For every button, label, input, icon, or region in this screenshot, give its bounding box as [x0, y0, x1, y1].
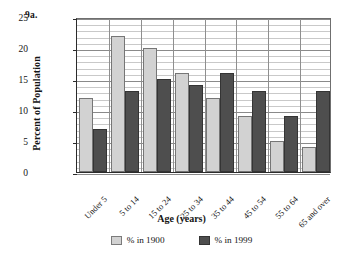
- y-axis-tick-mark: [73, 19, 77, 20]
- x-axis-title: Age (years): [0, 213, 363, 224]
- legend-swatch: [199, 236, 210, 245]
- bar: [189, 85, 203, 172]
- gridline-vertical: [300, 19, 301, 172]
- gridline-vertical: [173, 19, 174, 172]
- y-axis-tick-label: 15: [0, 75, 28, 85]
- bar: [284, 116, 298, 172]
- legend-item: % in 1900: [111, 235, 165, 245]
- gridline-vertical: [236, 19, 237, 172]
- x-axis-tick: 55 to 64: [293, 174, 320, 201]
- bar: [79, 98, 93, 172]
- x-axis-tick: 25 to 34: [198, 174, 225, 201]
- bar: [206, 98, 220, 172]
- gridline-minor: [77, 31, 330, 32]
- bar: [220, 73, 234, 172]
- bar: [93, 129, 107, 172]
- y-axis-tick-label: 25: [0, 13, 28, 23]
- gridline-vertical: [141, 19, 142, 172]
- bar: [302, 147, 316, 172]
- bar: [316, 91, 330, 172]
- y-axis-tick-mark: [73, 81, 77, 82]
- plot-area-wrapper: Under 55 to 1415 to 2425 to 3435 to 4445…: [76, 18, 331, 173]
- bar: [143, 48, 157, 172]
- bar: [175, 73, 189, 172]
- bar: [125, 91, 139, 172]
- x-axis-tick: 35 to 44: [229, 174, 256, 201]
- y-axis-tick-label: 5: [0, 137, 28, 147]
- y-axis-tick-mark: [73, 174, 77, 175]
- gridline-major: [77, 174, 330, 175]
- x-axis-tick: 45 to 54: [261, 174, 288, 201]
- chart-legend: % in 1900% in 1999: [0, 235, 363, 245]
- bar: [270, 141, 284, 172]
- plot-area: [76, 18, 331, 173]
- y-axis-title: Percent of Population: [31, 44, 42, 164]
- figure-container: 9a. Percent of Population 0510152025 Und…: [0, 0, 363, 262]
- legend-label: % in 1999: [215, 235, 253, 245]
- gridline-vertical: [268, 19, 269, 172]
- y-axis-tick-mark: [73, 50, 77, 51]
- bar: [157, 79, 171, 172]
- y-axis-tick-label: 10: [0, 106, 28, 116]
- gridline-vertical: [109, 19, 110, 172]
- legend-item: % in 1999: [199, 235, 253, 245]
- x-axis-tick: 15 to 24: [166, 174, 193, 201]
- legend-label: % in 1900: [127, 235, 165, 245]
- y-axis-tick-mark: [73, 143, 77, 144]
- y-axis-tick-label: 0: [0, 168, 28, 178]
- bar: [238, 116, 252, 172]
- bar: [111, 36, 125, 172]
- x-axis-tick: 5 to 14: [134, 177, 158, 201]
- y-axis-tick-label: 20: [0, 44, 28, 54]
- gridline-minor: [77, 25, 330, 26]
- x-axis-tick: Under 5: [102, 174, 129, 201]
- bar: [252, 91, 266, 172]
- gridline-vertical: [205, 19, 206, 172]
- y-axis-tick-mark: [73, 112, 77, 113]
- gridline-major: [77, 19, 330, 20]
- legend-swatch: [111, 236, 122, 245]
